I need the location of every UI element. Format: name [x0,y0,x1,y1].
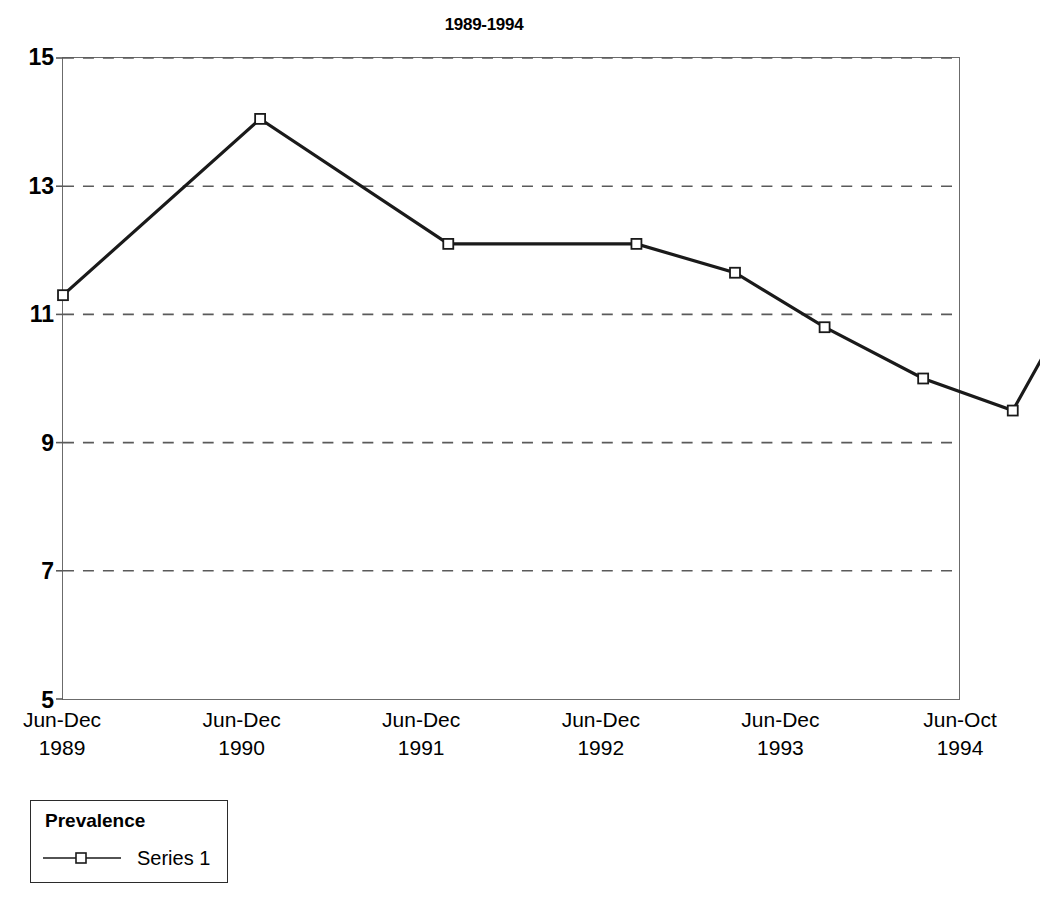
figure-caption [18,906,538,920]
legend-label: Series 1 [137,847,210,870]
y-tick-label: 15 [10,46,54,69]
legend-title: Prevalence [45,810,145,832]
data-point-marker [820,322,830,332]
x-tick-label-year: 1994 [880,734,1040,762]
data-point-marker [443,239,453,249]
gridlines [56,58,959,699]
x-tick-label-period: Jun-Dec [162,706,322,734]
x-tick-label: Jun-Dec1991 [341,706,501,763]
x-tick-label-year: 1992 [521,734,681,762]
x-tick-label-year: 1993 [700,734,860,762]
y-axis: 151311975 [0,0,54,920]
plot-svg [63,58,959,699]
x-tick-label: Jun-Dec1990 [162,706,322,763]
x-tick-label: Jun-Dec1992 [521,706,681,763]
x-tick-label-period: Jun-Dec [341,706,501,734]
chart-title: 1989-1994 [0,15,968,35]
data-point-marker [730,268,740,278]
y-tick-label: 9 [10,431,54,454]
chart-legend: Prevalence Series 1 [30,800,228,883]
series-layer [58,114,1040,416]
y-tick-label: 7 [10,560,54,583]
plot-area [62,57,960,700]
y-tick-label: 13 [10,174,54,197]
data-point-marker [255,114,265,124]
x-tick-label-year: 1990 [162,734,322,762]
data-point-marker [918,374,928,384]
x-tick-label: Jun-Dec1993 [700,706,860,763]
x-tick-label-year: 1989 [0,734,142,762]
legend-line-marker-icon [41,846,123,870]
series-line [63,119,1040,411]
data-point-marker [58,290,68,300]
x-tick-label-period: Jun-Dec [521,706,681,734]
x-axis: Jun-Dec1989Jun-Dec1990Jun-Dec1991Jun-Dec… [62,706,960,786]
x-tick-label-period: Jun-Dec [0,706,142,734]
y-tick-label: 11 [10,303,54,326]
x-tick-label-period: Jun-Oct [880,706,1040,734]
data-point-marker [1008,406,1018,416]
x-tick-label: Jun-Oct1994 [880,706,1040,763]
x-tick-label-year: 1991 [341,734,501,762]
x-tick-label: Jun-Dec1989 [0,706,142,763]
x-tick-label-period: Jun-Dec [700,706,860,734]
data-point-marker [631,239,641,249]
legend-entry-series-1[interactable]: Series 1 [41,846,221,872]
